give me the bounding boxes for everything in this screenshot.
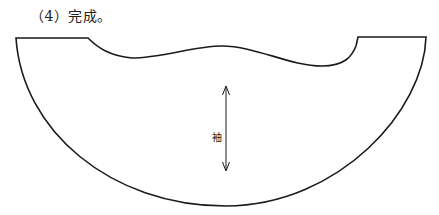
sleeve-pattern-diagram: 袖 xyxy=(0,0,439,215)
grain-line-arrow xyxy=(223,86,230,171)
sleeve-label: 袖 xyxy=(212,131,222,143)
sleeve-outline xyxy=(16,37,426,206)
